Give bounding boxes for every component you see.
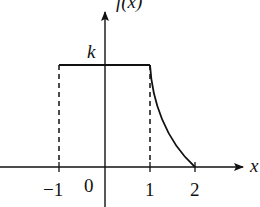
tick-label-neg1: −1 [43,179,63,200]
x-axis-label: x [249,155,259,176]
y-axis-label: f(x) [116,0,142,13]
function-graph: f(x) k x −1 0 1 2 [0,0,260,207]
origin-label: 0 [84,175,94,196]
tick-label-2: 2 [190,179,200,200]
tick-label-1: 1 [145,179,155,200]
decay-curve [150,65,195,167]
level-label-k: k [87,41,96,62]
